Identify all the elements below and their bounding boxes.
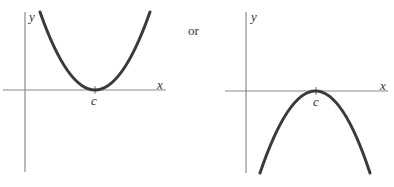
right-graph: y x c — [225, 9, 388, 173]
right-y-label: y — [249, 9, 257, 24]
left-parabola-curve — [40, 12, 150, 90]
right-c-label: c — [313, 94, 319, 109]
left-x-label: x — [156, 77, 163, 92]
left-graph: y x c — [3, 9, 166, 172]
left-y-label: y — [27, 9, 35, 24]
figure-canvas: y x c or y x c — [0, 0, 394, 187]
or-connector: or — [188, 23, 200, 38]
right-x-label: x — [379, 78, 386, 93]
left-c-label: c — [91, 93, 97, 108]
